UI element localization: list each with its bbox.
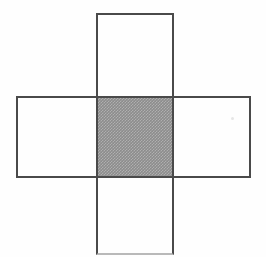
figure-canvas: Cross-shaped net formed by a tall vertic… — [0, 0, 266, 257]
seam-horizontal-bottom — [96, 176, 174, 178]
scan-speck — [231, 117, 234, 120]
vertical-rectangle — [96, 13, 174, 255]
seam-horizontal-top — [96, 96, 174, 98]
seam-vertical-left — [96, 96, 98, 178]
seam-vertical-right — [172, 96, 174, 178]
